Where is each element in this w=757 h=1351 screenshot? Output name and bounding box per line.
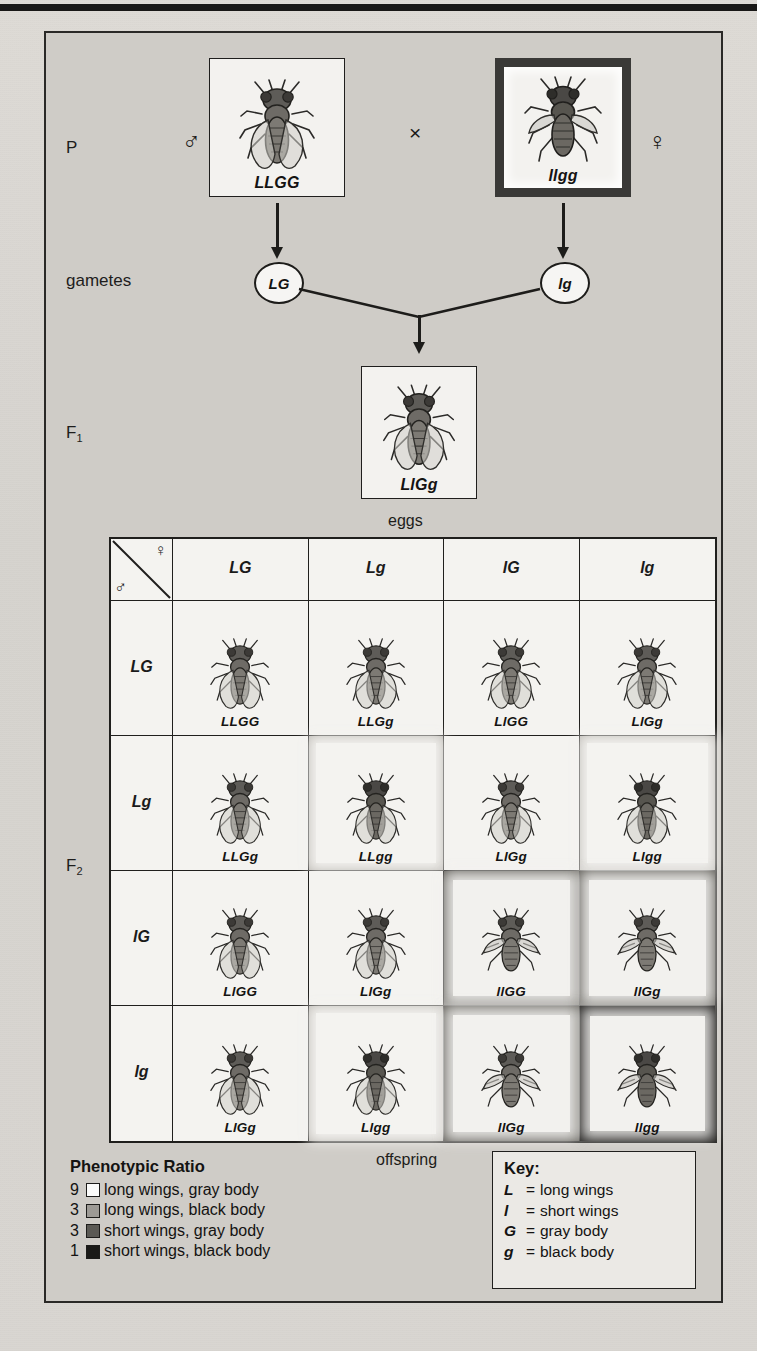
punnett-genotype-0-2: LlGG <box>494 714 528 729</box>
fly-short-wings-gray-body-icon <box>478 1042 544 1120</box>
punnett-cell-3-0: LlGg <box>173 1006 309 1141</box>
fly-short-wings-gray-body-icon <box>614 906 680 984</box>
phenotypic-ratio-title: Phenotypic Ratio <box>70 1157 270 1176</box>
phenotypic-ratio-count: 3 <box>70 1200 85 1220</box>
phenotypic-ratio-text: long wings, gray body <box>104 1180 259 1200</box>
arrow-to-f1 <box>418 315 421 343</box>
punnett-cell-3-1: Llgg <box>309 1006 445 1141</box>
punnett-cell-2-3: llGg <box>580 871 716 1006</box>
label-f1-generation: F1 <box>66 423 83 444</box>
parent-male-box: LLGG <box>209 58 345 197</box>
key-equals: = <box>521 1221 540 1242</box>
phenotypic-ratio-row: 1short wings, black body <box>70 1241 270 1261</box>
gamete-female: lg <box>540 262 590 304</box>
punnett-genotype-2-1: LlGg <box>360 984 392 999</box>
gamete-male: LG <box>254 262 304 304</box>
phenotypic-ratio-swatch-white <box>86 1183 100 1197</box>
cell-content: LLGg <box>309 601 444 732</box>
punnett-cell-2-0: LlGG <box>173 871 309 1006</box>
punnett-cell-1-2: LlGg <box>444 736 580 871</box>
punnett-genotype-0-0: LLGG <box>221 714 259 729</box>
punnett-genotype-2-2: llGG <box>497 984 526 999</box>
phenotypic-ratio-swatch-lgray <box>86 1204 100 1218</box>
fly-long-wings-black-body-icon <box>343 1042 409 1120</box>
fly-long-wings-gray-body-icon <box>614 636 680 714</box>
key-meaning: black body <box>540 1242 614 1263</box>
cell-content: llGg <box>444 1006 579 1138</box>
phenotypic-ratio-text: long wings, black body <box>104 1200 265 1220</box>
fly-long-wings-gray-body-icon <box>343 636 409 714</box>
punnett-cell-0-3: LlGg <box>580 601 716 736</box>
punnett-col-header-2: lG <box>444 539 580 601</box>
punnett-genotype-1-1: LLgg <box>359 849 393 864</box>
cell-content: LLgg <box>309 736 444 867</box>
label-gametes: gametes <box>66 271 131 291</box>
punnett-cell-2-1: LlGg <box>309 871 445 1006</box>
cell-content: LlGG <box>444 601 579 732</box>
fly-long-wings-gray-body-icon <box>478 636 544 714</box>
punnett-cell-0-1: LLGg <box>309 601 445 736</box>
punnett-genotype-1-3: Llgg <box>633 849 662 864</box>
cell-content: LlGg <box>444 736 579 867</box>
female-symbol-p: ♀ <box>648 129 667 154</box>
key-equals: = <box>521 1180 540 1201</box>
arrow-female-to-gamete <box>562 203 565 248</box>
fly-long-wings-black-body-icon <box>614 771 680 849</box>
punnett-col-header-0: LG <box>173 539 309 601</box>
cell-content: LlGG <box>173 871 308 1002</box>
key-symbol: G <box>504 1221 521 1242</box>
punnett-square: ♀ ♂ LG Lg lG lg LGLLGGLLGgLlGGLlGgLgLLGg… <box>109 537 717 1143</box>
key-row: G=gray body <box>504 1221 685 1242</box>
key-symbol: l <box>504 1201 521 1222</box>
punnett-cell-3-2: llGg <box>444 1006 580 1141</box>
key-equals: = <box>521 1201 540 1222</box>
phenotypic-ratio-legend: Phenotypic Ratio 9long wings, gray body3… <box>70 1157 270 1262</box>
phenotypic-ratio-text: short wings, black body <box>104 1241 270 1261</box>
punnett-genotype-3-2: llGg <box>498 1120 525 1135</box>
cross-symbol: × <box>409 121 421 145</box>
punnett-col-header-1: Lg <box>309 539 445 601</box>
fly-long-wings-gray-body-icon <box>207 1042 273 1120</box>
punnett-genotype-1-0: LLGg <box>222 849 258 864</box>
punnett-cell-1-1: LLgg <box>309 736 445 871</box>
parent-male-genotype: LLGG <box>254 174 299 192</box>
key-row: g=black body <box>504 1242 685 1263</box>
label-eggs: eggs <box>388 512 423 530</box>
phenotypic-ratio-count: 3 <box>70 1221 85 1241</box>
cell-content: LlGg <box>580 601 716 732</box>
phenotypic-ratio-row: 3short wings, gray body <box>70 1221 270 1241</box>
key-meaning: gray body <box>540 1221 608 1242</box>
male-symbol-p: ♂ <box>182 129 201 154</box>
punnett-genotype-0-3: LlGg <box>631 714 663 729</box>
punnett-genotype-0-1: LLGg <box>358 714 394 729</box>
label-p-generation: P <box>66 138 77 158</box>
phenotypic-ratio-count: 1 <box>70 1241 85 1261</box>
punnett-col-header-3: lg <box>580 539 716 601</box>
cell-content: Llgg <box>309 1006 444 1138</box>
punnett-genotype-2-3: llGg <box>634 984 661 999</box>
key-meaning: short wings <box>540 1201 618 1222</box>
label-offspring: offspring <box>376 1151 437 1169</box>
parent-female-genotype: llgg <box>548 167 577 185</box>
key-row: L=long wings <box>504 1180 685 1201</box>
cell-content: llGg <box>580 871 716 1002</box>
cell-content: llgg <box>580 1006 716 1138</box>
phenotypic-ratio-swatch-black <box>86 1245 100 1259</box>
fly-long-wings-gray-body-icon <box>343 906 409 984</box>
fly-short-wings-black-body-icon <box>521 75 605 167</box>
key-box: Key: L=long wingsl=short wingsG=gray bod… <box>492 1151 696 1289</box>
punnett-cell-3-3: llgg <box>580 1006 716 1141</box>
fly-long-wings-gray-body-icon <box>235 78 319 174</box>
punnett-genotype-2-0: LlGG <box>223 984 257 999</box>
cell-content: LlGg <box>309 871 444 1002</box>
fly-long-wings-black-body-icon <box>343 771 409 849</box>
key-equals: = <box>521 1242 540 1263</box>
cell-content: LlGg <box>173 1006 308 1138</box>
female-symbol-punnett: ♀ <box>154 541 167 561</box>
punnett-row-header-3: lg <box>111 1006 173 1141</box>
cell-content: Llgg <box>580 736 716 867</box>
key-title: Key: <box>504 1159 685 1178</box>
phenotypic-ratio-row: 9long wings, gray body <box>70 1180 270 1200</box>
fly-long-wings-gray-body-icon <box>379 382 459 476</box>
cell-content: llGG <box>444 871 579 1002</box>
